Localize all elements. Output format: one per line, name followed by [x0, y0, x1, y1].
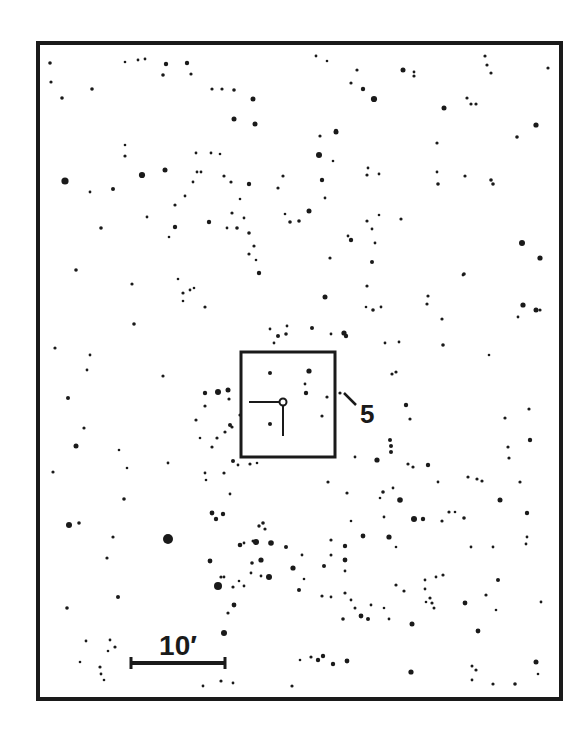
star	[436, 171, 439, 174]
star	[214, 517, 218, 521]
star	[355, 68, 358, 71]
star	[139, 172, 145, 178]
star	[232, 88, 236, 92]
star	[248, 462, 251, 465]
star-field	[48, 54, 549, 687]
star	[441, 343, 445, 347]
star	[316, 658, 320, 662]
star	[498, 498, 503, 503]
star	[219, 575, 222, 578]
star	[413, 71, 416, 74]
star	[495, 609, 498, 612]
star	[395, 546, 398, 549]
star	[329, 538, 332, 541]
star	[507, 456, 510, 459]
star	[520, 302, 525, 307]
star	[243, 217, 246, 220]
star	[48, 61, 52, 65]
star	[519, 240, 525, 246]
star	[303, 578, 306, 581]
star	[370, 604, 373, 607]
star	[365, 306, 368, 309]
star	[85, 640, 88, 643]
star	[137, 59, 140, 62]
star	[226, 388, 231, 393]
star	[330, 596, 333, 599]
star	[424, 579, 427, 582]
star	[474, 668, 477, 671]
star	[173, 225, 177, 229]
star	[374, 242, 377, 245]
star	[82, 426, 85, 429]
star	[318, 134, 321, 137]
star	[408, 669, 413, 674]
star	[394, 583, 397, 586]
star	[517, 316, 520, 319]
star	[310, 326, 314, 330]
star	[61, 177, 68, 184]
star	[194, 418, 197, 421]
star	[124, 61, 127, 64]
target-field-box	[241, 352, 335, 457]
star	[53, 346, 56, 349]
star	[365, 219, 368, 222]
star	[525, 543, 528, 546]
star	[378, 173, 381, 176]
star	[126, 467, 129, 470]
star	[273, 342, 276, 345]
star	[232, 682, 235, 685]
star	[347, 235, 350, 238]
star	[252, 244, 255, 247]
star	[238, 580, 241, 583]
star	[238, 543, 243, 548]
star	[326, 480, 329, 483]
star	[163, 534, 173, 544]
star	[386, 534, 391, 539]
star	[471, 665, 474, 668]
star	[394, 370, 397, 373]
star	[470, 546, 473, 549]
star	[161, 73, 165, 77]
star	[208, 559, 213, 564]
star	[193, 287, 196, 290]
star	[454, 511, 457, 514]
star	[100, 673, 103, 676]
star	[167, 462, 170, 465]
star	[237, 464, 240, 467]
star	[243, 542, 246, 545]
star	[465, 96, 468, 99]
star	[309, 655, 312, 658]
star	[324, 197, 327, 200]
star	[286, 325, 289, 328]
star	[221, 512, 225, 516]
star	[343, 544, 347, 548]
star	[440, 317, 443, 320]
star	[288, 220, 292, 224]
star	[469, 102, 472, 105]
star	[389, 450, 393, 454]
star	[89, 191, 92, 194]
star	[219, 153, 222, 156]
star	[406, 462, 409, 465]
star	[462, 272, 466, 276]
star	[297, 219, 301, 223]
star	[345, 659, 350, 664]
star	[116, 595, 120, 599]
star	[223, 430, 226, 433]
star	[485, 63, 488, 66]
star	[332, 160, 335, 163]
star	[398, 341, 401, 344]
star	[105, 556, 108, 559]
star	[103, 679, 106, 682]
star	[331, 662, 335, 666]
star	[526, 536, 529, 539]
star	[231, 459, 235, 463]
star	[349, 81, 352, 84]
star	[222, 471, 225, 474]
star	[123, 154, 126, 157]
star	[268, 371, 272, 375]
star	[411, 516, 417, 522]
star	[349, 238, 353, 242]
star	[366, 617, 370, 621]
star	[401, 68, 406, 73]
